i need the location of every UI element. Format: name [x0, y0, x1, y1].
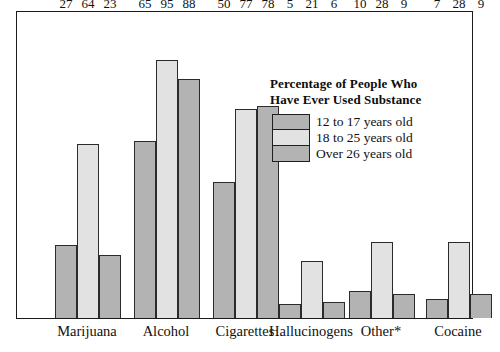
legend-swatch	[272, 146, 310, 162]
bar-item: 7	[426, 12, 448, 318]
bar-item: 50	[213, 12, 235, 318]
bar-group: 10289	[349, 12, 415, 318]
bar: 77	[235, 109, 257, 318]
bar-item: 5	[279, 12, 301, 318]
bar-value-label: 77	[240, 0, 253, 12]
plot-area: 2764236595885077785216102897289	[17, 12, 472, 318]
legend-title: Percentage of People Who Have Ever Used …	[270, 76, 470, 107]
bar-item: 77	[235, 12, 257, 318]
bar-value-label: 6	[331, 0, 338, 12]
bar-item: 78	[257, 12, 279, 318]
bar-group: 5216	[279, 12, 345, 318]
bar-item: 9	[393, 12, 415, 318]
bar: 7	[426, 299, 448, 318]
bar-item: 64	[77, 12, 99, 318]
bar-item: 28	[448, 12, 470, 318]
bar-group: 7289	[426, 12, 492, 318]
legend-row: 12 to 17 years old	[270, 114, 470, 130]
bar: 9	[470, 294, 492, 318]
plot-frame: 2764236595885077785216102897289	[16, 11, 473, 319]
bar-value-label: 50	[218, 0, 231, 12]
legend-title-line-1: Percentage of People Who	[270, 76, 470, 92]
bar-group: 276423	[55, 12, 121, 318]
bar-item: 65	[134, 12, 156, 318]
bar: 28	[448, 242, 470, 318]
bar: 65	[134, 141, 156, 318]
legend-label: 18 to 25 years old	[316, 130, 413, 146]
bar-value-label: 28	[453, 0, 466, 12]
category-label: Hallucinogens	[269, 321, 353, 341]
legend-swatch	[272, 114, 310, 130]
bar: 23	[99, 255, 121, 318]
bar-value-label: 21	[306, 0, 319, 12]
bar-group: 659588	[134, 12, 200, 318]
bar-value-label: 10	[354, 0, 367, 12]
bar-value-label: 64	[82, 0, 95, 12]
bar-item: 6	[323, 12, 345, 318]
bar-chart-figure: 2764236595885077785216102897289 Marijuan…	[0, 0, 500, 352]
bar-item: 10	[349, 12, 371, 318]
bar: 28	[371, 242, 393, 318]
bar: 5	[279, 304, 301, 318]
category-label: Cocaine	[434, 321, 482, 341]
bar-value-label: 7	[434, 0, 441, 12]
bar-value-label: 65	[139, 0, 152, 12]
bar-item: 21	[301, 12, 323, 318]
category-label: Other*	[361, 321, 401, 341]
bar-value-label: 95	[161, 0, 174, 12]
bar-group: 507778	[213, 12, 279, 318]
bar-value-label: 88	[183, 0, 196, 12]
legend-row: Over 26 years old	[270, 146, 470, 162]
bar-value-label: 27	[60, 0, 73, 12]
bar: 64	[77, 144, 99, 318]
category-label: Marijuana	[57, 321, 117, 341]
legend-label: Over 26 years old	[316, 146, 412, 162]
bar: 10	[349, 291, 371, 318]
bar-item: 95	[156, 12, 178, 318]
category-axis-labels: MarijuanaAlcoholCigarettesHallucinogensO…	[16, 321, 473, 347]
bar-value-label: 23	[104, 0, 117, 12]
bar-value-label: 5	[287, 0, 294, 12]
bar-item: 88	[178, 12, 200, 318]
bar: 50	[213, 182, 235, 318]
chart-legend: Percentage of People Who Have Ever Used …	[270, 76, 470, 162]
legend-title-line-2: Have Ever Used Substance	[270, 92, 470, 108]
legend-label: 12 to 17 years old	[316, 114, 413, 130]
bar-value-label: 78	[262, 0, 275, 12]
legend-row: 18 to 25 years old	[270, 130, 470, 146]
bar: 9	[393, 294, 415, 318]
bar-item: 28	[371, 12, 393, 318]
bar-item: 27	[55, 12, 77, 318]
bar: 27	[55, 245, 77, 318]
bar-value-label: 9	[401, 0, 408, 12]
bar-value-label: 9	[478, 0, 485, 12]
bar: 6	[323, 302, 345, 318]
bar: 21	[301, 261, 323, 318]
category-label: Cigarettes	[216, 321, 275, 341]
legend-items: 12 to 17 years old18 to 25 years oldOver…	[270, 114, 470, 162]
bar: 95	[156, 60, 178, 318]
category-label: Alcohol	[143, 321, 190, 341]
legend-swatch	[272, 130, 310, 146]
bar-item: 23	[99, 12, 121, 318]
bar: 88	[178, 79, 200, 318]
bar-item: 9	[470, 12, 492, 318]
bar-value-label: 28	[376, 0, 389, 12]
